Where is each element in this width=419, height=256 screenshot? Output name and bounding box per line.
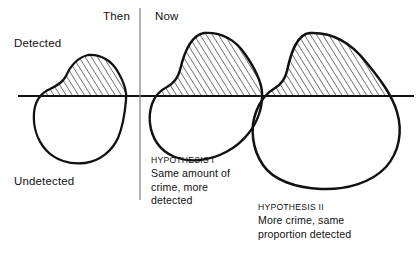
region-label-undetected: Undetected (14, 176, 74, 188)
diagram-canvas: Then Now Detected Undetected HYPOTHESIS … (0, 0, 419, 256)
hypothesis-1-line-1: Same amount of (151, 167, 230, 181)
crime-detection-diagram (0, 0, 419, 256)
region-label-detected: Detected (14, 38, 61, 50)
hypothesis-2-line-2: proportion detected (258, 228, 351, 242)
period-label-now: Now (155, 11, 179, 23)
hypothesis-2-line-1: More crime, same (258, 214, 351, 228)
hypothesis-2-caption: HYPOTHESIS II More crime, same proportio… (258, 202, 351, 241)
hypothesis-1-heading: HYPOTHESIS I (151, 155, 230, 165)
hypothesis-1-line-2: crime, more (151, 181, 230, 195)
hypothesis-1-caption: HYPOTHESIS I Same amount of crime, more … (151, 155, 230, 208)
hypothesis-2-heading: HYPOTHESIS II (258, 202, 351, 212)
hypothesis-1-line-3: detected (151, 194, 230, 208)
period-label-then: Then (103, 11, 130, 23)
